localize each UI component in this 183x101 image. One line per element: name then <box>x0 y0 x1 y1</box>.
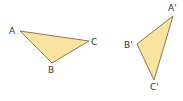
vertex-label-b: B <box>48 65 54 75</box>
vertex-label-b-prime: B' <box>124 40 133 50</box>
triangles-diagram: A C B A' B' C' <box>0 0 183 101</box>
vertex-label-a-prime: A' <box>168 3 177 13</box>
triangle-abc-shape <box>20 31 89 63</box>
triangle-abc: A C B <box>9 26 97 75</box>
triangle-prime-shape <box>137 16 173 80</box>
vertex-label-c-prime: C' <box>150 82 159 92</box>
vertex-label-c: C <box>91 37 97 47</box>
triangle-a-prime-b-prime-c-prime: A' B' C' <box>124 3 177 92</box>
vertex-label-a: A <box>9 26 16 36</box>
